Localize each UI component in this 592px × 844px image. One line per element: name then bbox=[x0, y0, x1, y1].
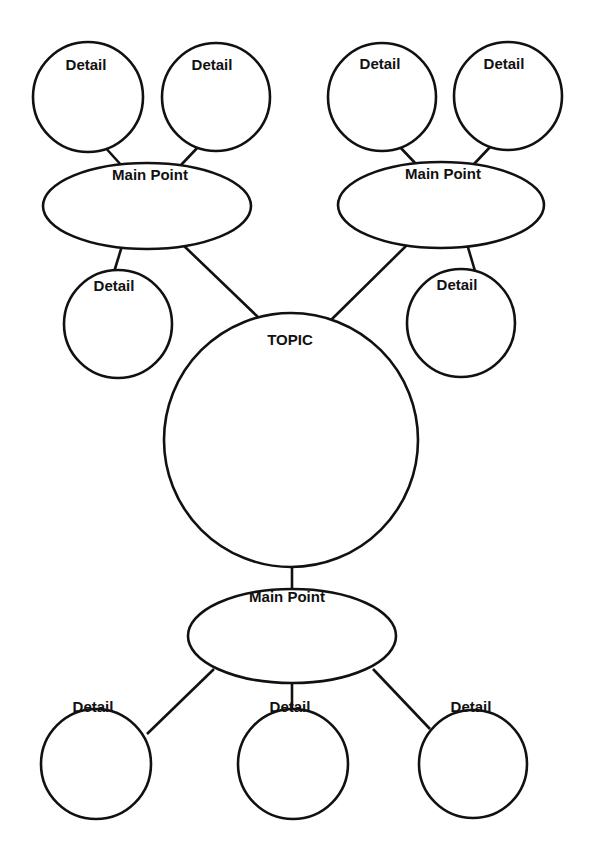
topic: TOPIC bbox=[164, 313, 418, 567]
detail-label: Detail bbox=[270, 698, 311, 715]
connector bbox=[183, 245, 259, 318]
detail-label: Detail bbox=[192, 56, 233, 73]
detail-bubble[interactable] bbox=[238, 709, 348, 819]
connector bbox=[373, 669, 430, 729]
detail-label: Detail bbox=[66, 56, 107, 73]
main-point-label: Main Point bbox=[249, 588, 325, 605]
detail-label: Detail bbox=[73, 698, 114, 715]
detail-label: Detail bbox=[451, 698, 492, 715]
connector bbox=[330, 244, 408, 321]
bubble-map-diagram: Detail Detail Main Point Detail Detail D… bbox=[0, 0, 592, 844]
topic-label: TOPIC bbox=[267, 331, 313, 348]
connector bbox=[467, 244, 475, 271]
topic-circle[interactable] bbox=[164, 313, 418, 567]
connector bbox=[114, 246, 122, 272]
detail-label: Detail bbox=[360, 55, 401, 72]
main-point-top-right: Detail Detail Main Point Detail bbox=[328, 42, 562, 377]
main-point-label: Main Point bbox=[112, 166, 188, 183]
detail-bubble[interactable] bbox=[419, 710, 527, 818]
connector bbox=[147, 669, 214, 734]
detail-label: Detail bbox=[94, 277, 135, 294]
main-point-label: Main Point bbox=[405, 165, 481, 182]
detail-bubble[interactable] bbox=[41, 709, 151, 819]
detail-label: Detail bbox=[437, 276, 478, 293]
detail-label: Detail bbox=[484, 55, 525, 72]
main-point-bottom: Main Point Detail Detail Detail bbox=[41, 588, 527, 819]
